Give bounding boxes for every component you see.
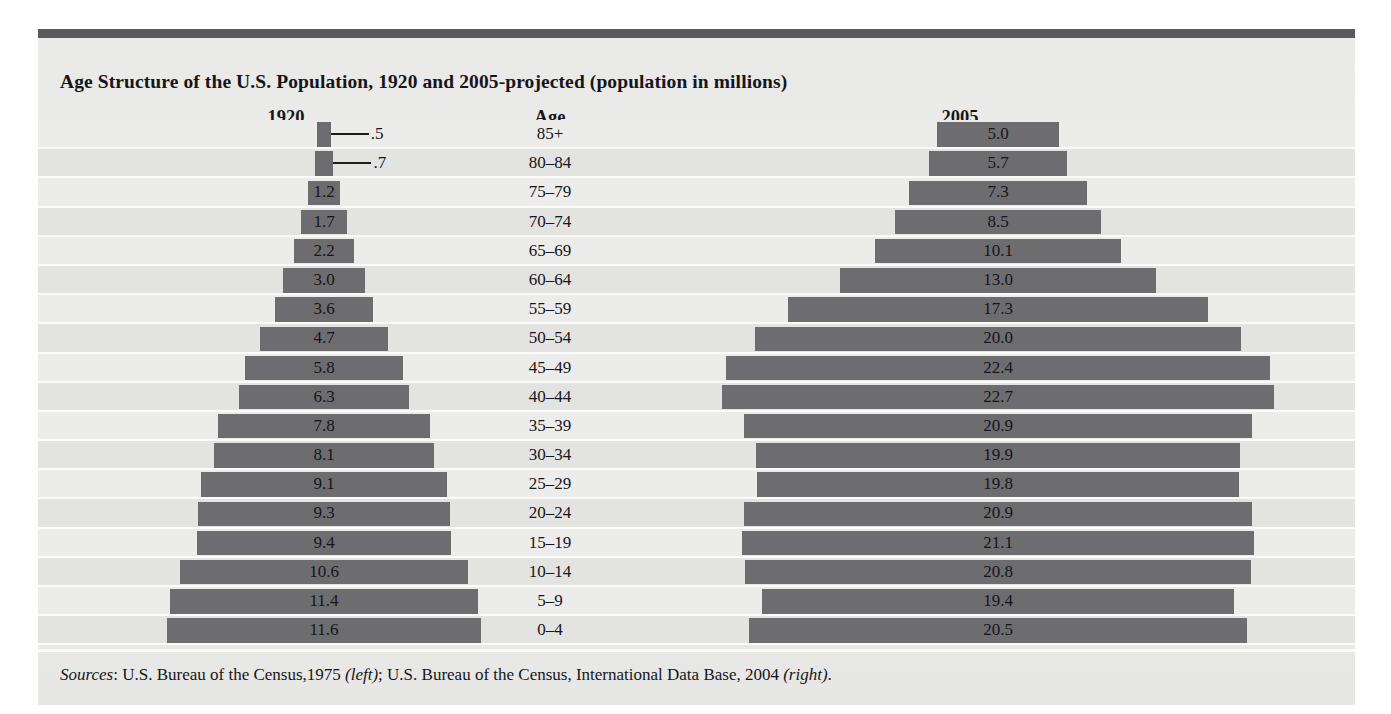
bar-value-1920: 4.7 — [313, 324, 334, 353]
bar-value-1920: 2.2 — [313, 237, 334, 266]
bar-value-2005: 13.0 — [983, 266, 1013, 295]
pyramid-row: 9.125–2919.8 — [38, 470, 1355, 499]
bar-value-2005: 20.0 — [983, 324, 1013, 353]
pyramid-row: 6.340–4422.7 — [38, 383, 1355, 412]
page-title: Age Structure of the U.S. Population, 19… — [60, 71, 787, 93]
footer-divider — [38, 649, 1355, 652]
bar-value-1920: 1.7 — [313, 208, 334, 237]
pyramid-row: 7.835–3920.9 — [38, 412, 1355, 441]
bar-value-1920: .5 — [371, 120, 384, 149]
bar-value-2005: 21.1 — [983, 529, 1013, 558]
age-group-label: 40–44 — [529, 383, 572, 412]
pyramid-row: 11.45–919.4 — [38, 587, 1355, 616]
bar-value-2005: 20.5 — [983, 616, 1013, 645]
pyramid-row: 9.415–1921.1 — [38, 529, 1355, 558]
bar-value-1920: .7 — [373, 149, 386, 178]
pyramid-row: 10.610–1420.8 — [38, 558, 1355, 587]
pyramid-row: 4.750–5420.0 — [38, 324, 1355, 353]
age-group-label: 0–4 — [537, 616, 563, 645]
bar-value-2005: 20.8 — [983, 558, 1013, 587]
age-group-label: 20–24 — [529, 499, 572, 528]
bar-value-2005: 20.9 — [983, 499, 1013, 528]
age-group-label: 25–29 — [529, 470, 572, 499]
age-group-label: 70–74 — [529, 208, 572, 237]
bar-value-2005: 10.1 — [983, 237, 1013, 266]
age-group-label: 50–54 — [529, 324, 572, 353]
bar-value-1920: 11.4 — [309, 587, 338, 616]
bar-1920 — [317, 122, 331, 146]
source-right-tag: (right) — [783, 665, 827, 684]
age-group-label: 35–39 — [529, 412, 572, 441]
age-group-label: 75–79 — [529, 178, 572, 207]
age-group-label: 5–9 — [537, 587, 563, 616]
bar-value-2005: 19.4 — [983, 587, 1013, 616]
age-group-label: 45–49 — [529, 354, 572, 383]
pyramid-row: 1.770–748.5 — [38, 208, 1355, 237]
bar-value-2005: 8.5 — [987, 208, 1008, 237]
source-label: Sources — [60, 665, 113, 684]
source-left-tag: (left) — [345, 665, 378, 684]
bar-value-1920: 3.6 — [313, 295, 334, 324]
bar-value-1920: 5.8 — [313, 354, 334, 383]
age-group-label: 30–34 — [529, 441, 572, 470]
source-text-right: ; U.S. Bureau of the Census, Internation… — [378, 665, 783, 684]
bar-value-1920: 11.6 — [309, 616, 338, 645]
bar-value-2005: 5.0 — [987, 120, 1008, 149]
pyramid-row: 5.845–4922.4 — [38, 354, 1355, 383]
figure-root: Age Structure of the U.S. Population, 19… — [0, 0, 1391, 714]
bar-value-1920: 10.6 — [309, 558, 339, 587]
age-group-label: 80–84 — [529, 149, 572, 178]
age-group-label: 60–64 — [529, 266, 572, 295]
bar-value-1920: 7.8 — [313, 412, 334, 441]
pyramid-row: 3.060–6413.0 — [38, 266, 1355, 295]
bar-value-1920: 9.3 — [313, 499, 334, 528]
source-text-left: : U.S. Bureau of the Census,1975 — [113, 665, 345, 684]
bar-value-2005: 5.7 — [987, 149, 1008, 178]
bar-value-1920: 6.3 — [313, 383, 334, 412]
bar-value-1920: 9.1 — [313, 470, 334, 499]
panel-top-accent-bar — [38, 29, 1355, 38]
pyramid-row: 3.655–5917.3 — [38, 295, 1355, 324]
age-group-label: 65–69 — [529, 237, 572, 266]
pyramid-row: 9.320–2420.9 — [38, 499, 1355, 528]
bar-value-1920: 3.0 — [313, 266, 334, 295]
pyramid-row: .780–845.7 — [38, 149, 1355, 178]
pyramid-row: 1.275–797.3 — [38, 178, 1355, 207]
source-note: Sources: U.S. Bureau of the Census,1975 … — [60, 665, 832, 685]
pyramid-row: 2.265–6910.1 — [38, 237, 1355, 266]
leader-line — [333, 162, 371, 164]
bar-1920 — [315, 151, 334, 175]
bar-value-2005: 20.9 — [983, 412, 1013, 441]
bar-value-1920: 1.2 — [313, 178, 334, 207]
pyramid-row: 11.60–420.5 — [38, 616, 1355, 645]
leader-line — [331, 133, 369, 135]
bar-value-2005: 7.3 — [987, 178, 1008, 207]
bar-value-1920: 8.1 — [313, 441, 334, 470]
source-period: . — [828, 665, 832, 684]
bar-value-2005: 22.4 — [983, 354, 1013, 383]
bar-value-2005: 22.7 — [983, 383, 1013, 412]
chart-panel: Age Structure of the U.S. Population, 19… — [38, 29, 1355, 705]
bar-value-2005: 19.9 — [983, 441, 1013, 470]
bar-value-2005: 17.3 — [983, 295, 1013, 324]
pyramid-row: 8.130–3419.9 — [38, 441, 1355, 470]
age-group-label: 85+ — [537, 120, 564, 149]
bar-value-1920: 9.4 — [313, 529, 334, 558]
age-group-label: 55–59 — [529, 295, 572, 324]
age-group-label: 15–19 — [529, 529, 572, 558]
pyramid-rows: .585+5.0.780–845.71.275–797.31.770–748.5… — [38, 120, 1355, 645]
bar-value-2005: 19.8 — [983, 470, 1013, 499]
age-group-label: 10–14 — [529, 558, 572, 587]
pyramid-row: .585+5.0 — [38, 120, 1355, 149]
